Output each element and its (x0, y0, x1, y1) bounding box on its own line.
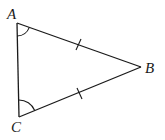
triangle-diagram: A B C (0, 0, 165, 140)
vertex-label-c: C (11, 119, 22, 135)
edge-ac (17, 23, 19, 117)
angle-arc-a (17, 27, 29, 36)
vertex-label-b: B (145, 60, 154, 76)
angle-arc-c (19, 100, 35, 111)
edge-ab (17, 23, 141, 67)
edge-cb (19, 67, 141, 117)
vertex-label-a: A (6, 6, 17, 22)
